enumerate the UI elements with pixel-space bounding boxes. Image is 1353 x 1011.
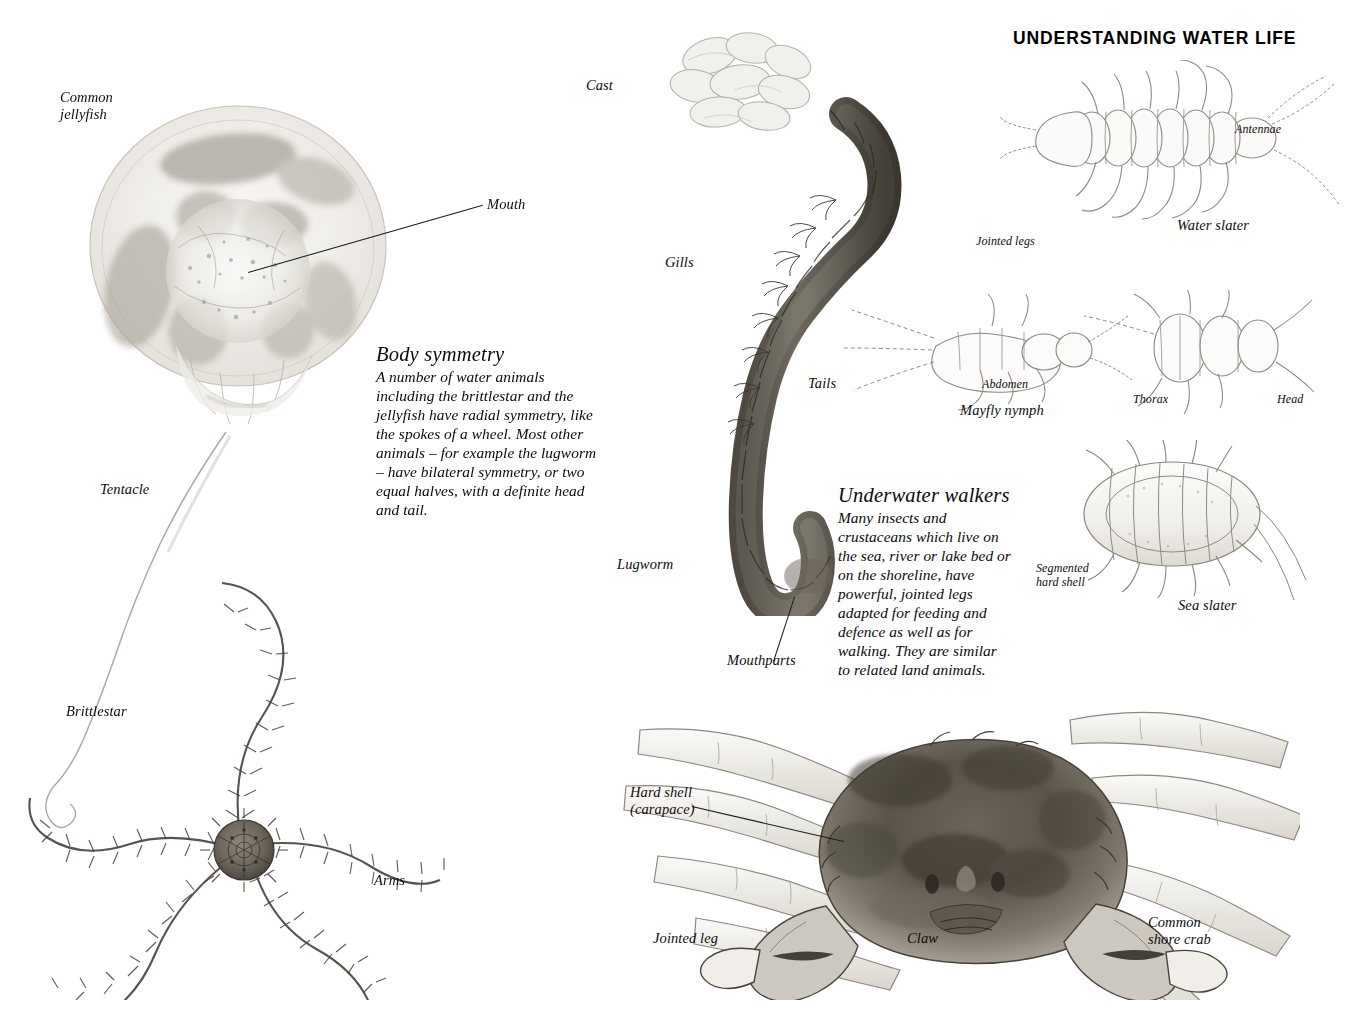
label-cast: Cast: [586, 77, 613, 94]
underwater-walkers-block: Underwater walkers Many insects and crus…: [838, 483, 1036, 679]
body-symmetry-heading: Body symmetry: [376, 342, 622, 366]
mayfly-nymph-illustration: [830, 290, 1350, 420]
shore-crab-illustration: [600, 660, 1300, 1000]
label-claw: Claw: [907, 930, 938, 947]
label-mayfly-nymph: Mayfly nymph: [960, 402, 1044, 419]
sea-slater-illustration: [1040, 440, 1320, 620]
underwater-walkers-body: Many insects and crustaceans which live …: [838, 508, 1036, 679]
label-segmented-hard-shell: Segmented hard shell: [1036, 561, 1089, 589]
label-thorax: Thorax: [1133, 392, 1168, 406]
label-common-jellyfish: Common jellyfish: [60, 89, 113, 123]
label-jointed-leg: Jointed leg: [653, 930, 718, 947]
label-common-shore-crab: Common shore crab: [1148, 914, 1211, 948]
plate-page: UNDERSTANDING WATER LIFE: [0, 0, 1353, 1011]
body-symmetry-body: A number of water animals including the …: [376, 367, 622, 519]
label-gills: Gills: [665, 254, 694, 271]
body-symmetry-block: Body symmetry A number of water animals …: [376, 342, 622, 519]
label-antennae: Antennae: [1235, 122, 1281, 136]
label-arms: Arms: [374, 872, 405, 889]
jellyfish-illustration: [78, 96, 408, 446]
label-lugworm: Lugworm: [617, 556, 673, 573]
label-brittlestar: Brittlestar: [66, 703, 127, 720]
label-water-slater: Water slater: [1177, 217, 1249, 234]
label-abdomen: Abdomen: [982, 377, 1028, 391]
label-hard-shell-carapace: Hard shell (carapace): [630, 784, 695, 818]
brittlestar-illustration: [28, 560, 458, 1000]
label-head: Head: [1277, 392, 1303, 406]
underwater-walkers-heading: Underwater walkers: [838, 483, 1036, 507]
label-sea-slater: Sea slater: [1178, 597, 1237, 614]
page-title: UNDERSTANDING WATER LIFE: [1013, 28, 1296, 49]
water-slater-illustration: [1000, 60, 1340, 240]
label-jointed-legs: Jointed legs: [976, 234, 1035, 248]
label-mouth: Mouth: [487, 196, 525, 213]
